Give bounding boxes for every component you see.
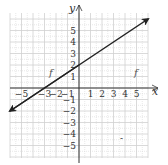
x-tick-label: 5 bbox=[134, 89, 140, 99]
x-tick-label: 4 bbox=[122, 89, 128, 99]
y-tick-label: −2 bbox=[63, 106, 76, 116]
x-axis-label: x bbox=[152, 85, 159, 98]
stray-mark: - bbox=[120, 133, 123, 143]
y-tick-label: −3 bbox=[63, 118, 77, 128]
y-tick-label: −1 bbox=[63, 95, 76, 105]
y-tick-label: 5 bbox=[70, 26, 76, 36]
x-tick-label: 1 bbox=[88, 89, 94, 99]
axes bbox=[10, 5, 158, 163]
y-tick-label: 4 bbox=[70, 37, 76, 47]
y-tick-label: 1 bbox=[70, 72, 76, 82]
x-tick-label: 3 bbox=[111, 89, 117, 99]
y-tick-label: 3 bbox=[70, 49, 76, 59]
x-tick-label: −5 bbox=[15, 89, 29, 99]
y-axis-label: y bbox=[68, 2, 76, 15]
coordinate-graph: −5−3−2−11234554321−1−2−3−4−5 x y f f - bbox=[0, 0, 168, 165]
y-tick-label: −5 bbox=[63, 141, 77, 151]
x-tick-label: 2 bbox=[99, 89, 105, 99]
y-tick-label: −4 bbox=[63, 129, 77, 139]
